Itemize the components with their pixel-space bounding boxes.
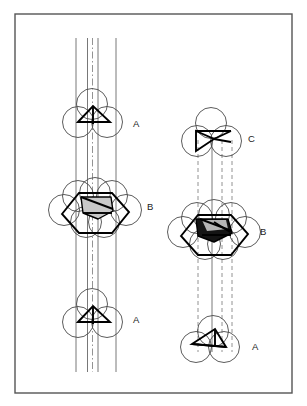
crystal-packing-diagram: ABACBA — [0, 0, 307, 406]
label-A-bottom-left: A — [133, 314, 140, 325]
label-B-middle-left: B — [147, 201, 153, 212]
figure-root: ABACBA — [0, 0, 307, 406]
label-A-bottom-right: A — [252, 341, 259, 352]
label-C-top-right: C — [248, 133, 255, 144]
figure-border — [15, 14, 292, 393]
label-B-middle-right: B — [260, 226, 266, 237]
label-A-top-left: A — [133, 118, 140, 129]
